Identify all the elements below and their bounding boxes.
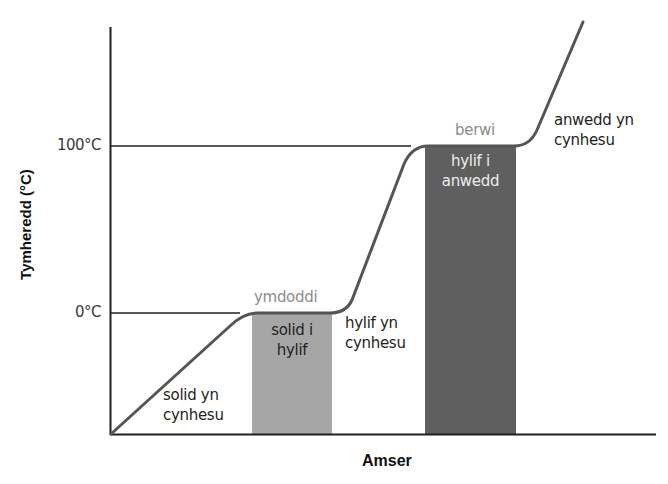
label-vapour-warming-line2: cynhesu bbox=[554, 130, 664, 150]
label-solid-warming: solid yn cynhesu bbox=[163, 385, 243, 425]
label-liquid-warming-line2: cynhesu bbox=[345, 333, 425, 353]
label-liquid-warming-line1: hylif yn bbox=[345, 313, 425, 333]
label-solid-to-liquid: solid i hylif bbox=[252, 320, 332, 360]
label-vapour-warming-line1: anwedd yn bbox=[554, 110, 664, 130]
label-liquid-to-vapour-line2: anwedd bbox=[425, 171, 516, 191]
label-vapour-warming: anwedd yn cynhesu bbox=[554, 110, 664, 150]
label-liquid-warming: hylif yn cynhesu bbox=[345, 313, 425, 353]
label-solid-warming-line2: cynhesu bbox=[163, 405, 243, 425]
label-melting: ymdoddi bbox=[254, 288, 317, 307]
label-boiling: berwi bbox=[455, 121, 495, 140]
label-solid-to-liquid-line2: hylif bbox=[252, 340, 332, 360]
y-tick-0c: 0°C bbox=[41, 303, 101, 322]
y-axis-title: Tymheredd (°C) bbox=[17, 145, 34, 305]
y-tick-100c: 100°C bbox=[41, 136, 101, 155]
label-solid-warming-line1: solid yn bbox=[163, 385, 243, 405]
label-liquid-to-vapour: hylif i anwedd bbox=[425, 151, 516, 191]
label-solid-to-liquid-line1: solid i bbox=[252, 320, 332, 340]
label-liquid-to-vapour-line1: hylif i bbox=[425, 151, 516, 171]
heating-curve-diagram bbox=[0, 0, 668, 484]
x-axis-title: Amser bbox=[362, 452, 412, 470]
